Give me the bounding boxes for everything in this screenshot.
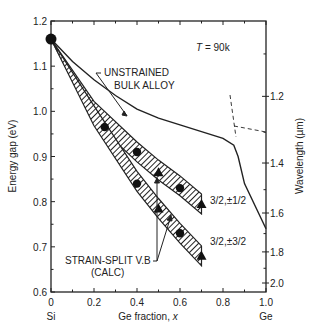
calc-label: (CALC) — [91, 267, 124, 278]
y2-tick-label: 1.6 — [270, 208, 284, 219]
x-tick-label: 0 — [48, 297, 54, 308]
x-tick-label: 0.6 — [173, 297, 187, 308]
circle-marker — [176, 184, 184, 192]
y-tick-label: 0.9 — [33, 152, 47, 163]
unstrained-label: UNSTRAINED — [104, 67, 169, 78]
circle-marker — [176, 229, 184, 237]
x-tick-label: 0.2 — [87, 297, 101, 308]
temperature-label: T = 90k — [196, 42, 231, 53]
circle-marker — [133, 148, 141, 156]
y2-tick-label: 1.8 — [270, 247, 284, 258]
circle-marker — [133, 179, 141, 187]
y-axis-title: Energy gap (eV) — [7, 120, 18, 193]
band-threehalf-label: 3/2,±3/2 — [210, 236, 247, 247]
y2-tick-label: 1.4 — [270, 158, 284, 169]
bandgap-chart: 00.20.40.60.81.00.60.70.80.91.01.11.21.2… — [0, 0, 316, 334]
y2-tick-label: 1.2 — [270, 91, 284, 102]
x-axis-title: Ge fraction, x — [118, 311, 178, 322]
y-tick-label: 1.0 — [33, 106, 47, 117]
y-tick-label: 1.2 — [33, 16, 47, 27]
circle-marker — [101, 123, 109, 131]
y2-axis-title: Wavelength (µm) — [294, 118, 305, 194]
si-label: Si — [47, 311, 56, 322]
x-tick-label: 0.8 — [216, 297, 230, 308]
bulk-alloy-label: BULK ALLOY — [114, 80, 175, 91]
y-tick-label: 1.1 — [33, 61, 47, 72]
x-tick-label: 1.0 — [259, 297, 273, 308]
y-tick-label: 0.6 — [33, 287, 47, 298]
ge-label: Ge — [259, 311, 273, 322]
y2-tick-label: 2.0 — [270, 278, 284, 289]
y-tick-label: 0.8 — [33, 197, 47, 208]
band-half-label: 3/2,±1/2 — [210, 195, 247, 206]
dashed-extrapolations — [230, 95, 266, 137]
y-tick-label: 0.7 — [33, 242, 47, 253]
circle-marker — [46, 34, 57, 45]
plot-frame — [51, 21, 266, 292]
strain-split-label: STRAIN-SPLIT V.B — [65, 255, 151, 266]
x-tick-label: 0.4 — [130, 297, 144, 308]
